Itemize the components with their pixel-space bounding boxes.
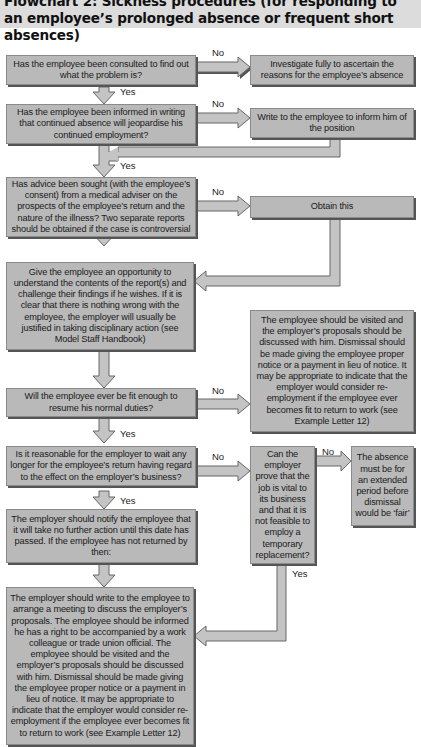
arrow-no-5 (196, 461, 250, 481)
node-q-informed: Has the employee been informed in writin… (6, 104, 196, 144)
node-q-consulted: Has the employee been consulted to find … (6, 55, 196, 85)
node-q-wait: Is it reasonable for the employer to wai… (6, 446, 196, 486)
arrow-yes-1 (93, 87, 115, 104)
node-extended-period: The absence must be for an extended peri… (351, 446, 414, 526)
arrow-no-3 (196, 196, 250, 216)
node-meeting-dismissal: The employer should write to the employe… (6, 587, 194, 745)
label-yes-2: Yes (120, 160, 136, 171)
arrow-yes-5 (93, 491, 115, 509)
label-yes-1: Yes (120, 86, 136, 97)
arrow-yes-4 (93, 417, 115, 443)
node-notify: The employer should notify the employee … (6, 509, 196, 563)
arrow-down-6 (93, 563, 115, 587)
label-no-3: No (212, 186, 224, 197)
label-yes-5: Yes (120, 495, 136, 506)
node-opportunity: Give the employee an opportunity to unde… (6, 262, 194, 350)
label-no-1: No (212, 47, 224, 58)
arrow-down-4 (93, 350, 115, 388)
label-no-5: No (212, 451, 224, 462)
arrow-no-2 (196, 108, 250, 128)
node-visit-dismissal: The employee should be visited and the e… (250, 310, 414, 432)
arrow-obtain-return (194, 218, 340, 291)
label-no-6: No (322, 446, 334, 457)
node-q-advice: Has advice been sought (with the employe… (6, 177, 196, 237)
arrow-yes-6 (194, 564, 286, 646)
node-obtain-this: Obtain this (250, 196, 414, 218)
arrow-no-4 (196, 394, 250, 414)
label-no-2: No (212, 98, 224, 109)
label-yes-6: Yes (292, 568, 308, 579)
label-yes-4: Yes (120, 428, 136, 439)
label-no-4: No (212, 385, 224, 396)
node-write-to-employee: Write to the employee to inform him of t… (250, 108, 414, 138)
node-q-fit: Will the employee ever be fit enough to … (6, 388, 196, 417)
node-q-vital: Can the employer prove that the job is v… (250, 446, 315, 564)
node-investigate: Investigate fully to ascertain the reaso… (250, 55, 414, 85)
